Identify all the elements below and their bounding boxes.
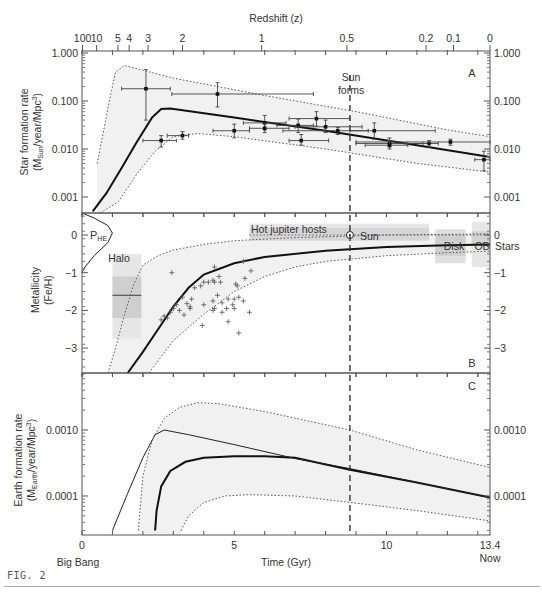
- ylabel-C-line1: Earth formation rate: [12, 413, 24, 506]
- point-marker: [299, 139, 303, 143]
- y-tick-label: 0.010: [52, 143, 78, 155]
- sun-label: Sun: [360, 230, 379, 242]
- point-marker: [388, 143, 392, 147]
- ylabel-B-line1: Metallicity: [29, 266, 41, 313]
- halo-label: Halo: [108, 252, 130, 264]
- star-cross: [200, 323, 205, 328]
- redshift-tick-label: 10: [91, 32, 103, 44]
- y-tick-label-right: −3: [494, 342, 506, 354]
- uncertainty-band-B: [108, 234, 490, 373]
- panel-label-A: A: [468, 67, 476, 79]
- y-tick-label: 0.100: [52, 95, 78, 107]
- star-cross: [224, 306, 229, 311]
- time-tick-label: 0: [79, 539, 85, 551]
- redshift-tick-label: 3: [145, 32, 151, 44]
- y-tick-label-right: 0.0001: [494, 490, 526, 502]
- point-marker: [315, 117, 319, 121]
- ylabel-A-line2: (MSun/year/Mpc3): [31, 93, 44, 171]
- region-inner: [112, 276, 141, 317]
- y-tick-label: 0: [71, 229, 77, 241]
- ob-label: OB: [474, 240, 489, 252]
- time-axis-title: Time (Gyr): [261, 556, 311, 568]
- ylabel-B: Metallicity(Fe/H): [29, 266, 54, 313]
- point-marker: [216, 92, 220, 96]
- y-tick-label: 1.000: [52, 47, 78, 59]
- phe-label: PHE: [90, 229, 107, 242]
- redshift-tick-label: 0.2: [419, 32, 434, 44]
- star-cross: [226, 319, 231, 324]
- figure-label: FIG. 2: [7, 570, 46, 581]
- panel-label-B: B: [468, 357, 475, 369]
- redshift-tick-label: 0.5: [340, 32, 355, 44]
- redshift-tick-label: 1: [259, 32, 265, 44]
- point-marker: [159, 139, 163, 143]
- time-tick-label: 13.4: [480, 539, 501, 551]
- caption-rule: [4, 586, 540, 587]
- ylabel-A-line1: Star formation rate: [18, 88, 30, 175]
- redshift-tick-label: 0: [487, 32, 493, 44]
- star-cross: [236, 331, 241, 336]
- point-marker: [263, 126, 267, 130]
- y-tick-label: 0.001: [52, 191, 78, 203]
- point-marker: [324, 125, 328, 129]
- ylabel-C-line2: (MEarth/year/Mpc3): [25, 419, 38, 502]
- y-tick-label-right: 0.001: [494, 191, 520, 203]
- star-cross: [247, 310, 252, 315]
- disk-label: Disk: [444, 240, 465, 252]
- ylabel-A: Star formation rate(MSun/year/Mpc3): [18, 88, 44, 175]
- hot-jupiter-hosts-label: Hot jupiter hosts: [251, 223, 327, 235]
- point-marker: [482, 158, 486, 162]
- figure-canvas: 10010543210.50.20.10Redshift (z)051013.4…: [0, 0, 542, 592]
- star-cross: [241, 298, 246, 303]
- redshift-tick-label: 4: [126, 32, 132, 44]
- point-marker: [144, 87, 148, 91]
- point-marker: [336, 129, 340, 133]
- y-tick-label-right: 0.0010: [494, 424, 526, 436]
- now-label: Now: [479, 552, 500, 564]
- ylabel-B-line2: (Fe/H): [42, 275, 54, 305]
- y-tick-label-right: 1.000: [494, 47, 520, 59]
- uncertainty-band-A: [97, 66, 490, 214]
- point-marker: [449, 140, 453, 144]
- redshift-tick-label: 100: [74, 32, 92, 44]
- time-tick-label: 5: [231, 539, 237, 551]
- stars-label: Stars: [495, 240, 520, 252]
- redshift-axis-title: Redshift (z): [249, 12, 303, 24]
- star-cross: [236, 295, 241, 300]
- y-tick-label: −2: [65, 304, 77, 316]
- y-tick-label: 0.0001: [46, 490, 78, 502]
- redshift-tick-label: 2: [180, 32, 186, 44]
- y-tick-label: −1: [65, 267, 77, 279]
- y-tick-label: 0.0010: [46, 424, 78, 436]
- redshift-tick-label: 0.1: [446, 32, 461, 44]
- y-tick-label: −3: [65, 342, 77, 354]
- y-tick-label-right: −1: [494, 267, 506, 279]
- time-tick-label: 10: [381, 539, 393, 551]
- y-tick-label-right: −2: [494, 304, 506, 316]
- point-marker: [232, 129, 236, 133]
- uncertainty-bands: [97, 66, 490, 536]
- star-cross: [232, 297, 237, 302]
- y-tick-label-right: 0.100: [494, 95, 520, 107]
- big-bang-label: Big Bang: [57, 556, 100, 568]
- sun-forms-label-1: Sun: [342, 71, 361, 83]
- ylabel-C: Earth formation rate(MEarth/year/Mpc3): [12, 413, 38, 506]
- uncertainty-band-C: [138, 403, 490, 535]
- star-cross: [220, 310, 225, 315]
- point-marker: [372, 129, 376, 133]
- y-tick-label-right: 0.010: [494, 143, 520, 155]
- sun-forms-label-2: forms: [338, 84, 364, 96]
- redshift-tick-label: 5: [115, 32, 121, 44]
- point-marker: [181, 134, 185, 138]
- panel-label-C: C: [468, 380, 476, 392]
